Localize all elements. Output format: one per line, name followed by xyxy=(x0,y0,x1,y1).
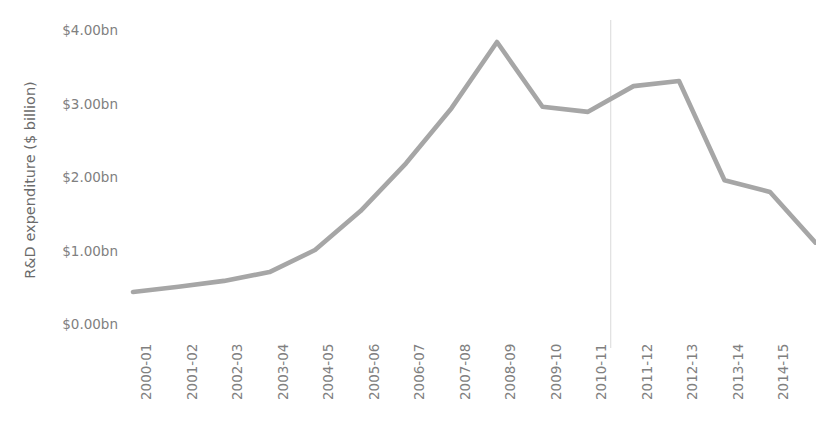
x-axis-tick-label: 2000-01 xyxy=(138,344,154,400)
x-axis-tick-label: 2009-10 xyxy=(548,344,564,400)
x-axis-tick-label: 2006-07 xyxy=(411,344,427,400)
x-axis-tick-label: 2001-02 xyxy=(184,344,200,400)
x-axis-tick-label: 2004-05 xyxy=(320,344,336,400)
x-axis-tick-label: 2011-12 xyxy=(639,344,655,400)
rd-expenditure-line-chart: R&D expenditure ($ billion) $4.00bn$3.00… xyxy=(0,0,816,426)
x-axis-tick-label: 2008-09 xyxy=(502,344,518,400)
x-axis-tick-label: 2013-14 xyxy=(730,344,746,400)
x-axis-tick-label: 2014-15 xyxy=(775,344,791,400)
data-line-r-d-expenditure xyxy=(133,42,816,292)
x-axis-tick-label: 2007-08 xyxy=(457,344,473,400)
x-axis-tick-label: 2002-03 xyxy=(229,344,245,400)
x-axis-tick-label: 2005-06 xyxy=(366,344,382,400)
x-axis-tick-label: 2010-11 xyxy=(593,344,609,400)
x-axis-tick-label: 2012-13 xyxy=(684,344,700,400)
data-series-layer xyxy=(133,42,816,292)
x-axis-tick-label: 2003-04 xyxy=(275,344,291,400)
